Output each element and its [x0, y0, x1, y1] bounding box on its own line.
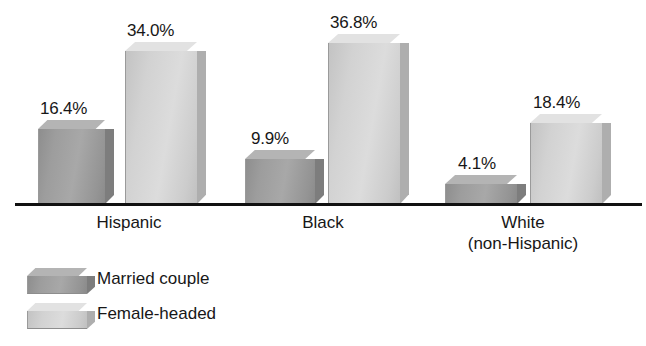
x-axis-baseline [15, 203, 642, 206]
category-label-black: Black [243, 212, 403, 233]
bar-front-face [125, 51, 197, 204]
bar-top-face [245, 150, 315, 159]
bar-side-face [315, 159, 324, 204]
bar-front-face [38, 129, 105, 204]
value-label-hispanic-female-headed: 34.0% [127, 21, 174, 40]
category-label-line-1: White [501, 213, 544, 232]
legend-label-married-couple: Married couple [97, 266, 209, 292]
bar-top-face [328, 34, 400, 43]
value-label-black-female-headed: 36.8% [330, 13, 377, 32]
bar-black-married-couple [245, 150, 315, 204]
legend-swatch-married-couple [27, 268, 87, 294]
category-label-line-1: Black [302, 213, 344, 232]
bar-side-face [602, 123, 611, 204]
bar-front-face [245, 159, 315, 204]
legend-swatch-front-face [27, 311, 87, 329]
value-label-black-married-couple: 9.9% [251, 129, 289, 148]
value-label-white-married-couple: 4.1% [458, 154, 496, 173]
bar-side-face [517, 184, 526, 204]
value-label-hispanic-married-couple: 16.4% [40, 99, 87, 118]
bar-top-face [38, 120, 105, 129]
bar-side-face [197, 51, 206, 204]
bar-side-face [400, 43, 409, 204]
legend-item-female-headed: Female-headed [27, 301, 327, 331]
bar-top-face [125, 42, 197, 51]
bar-hispanic-female-headed [125, 42, 197, 204]
bar-top-face [530, 114, 602, 123]
bar-top-face [445, 175, 517, 184]
bar-front-face [445, 184, 517, 204]
category-label-white-non-hispanic: White (non-Hispanic) [443, 212, 603, 254]
legend-swatch-side-face [87, 311, 95, 329]
category-label-hispanic: Hispanic [49, 212, 209, 233]
bar-black-female-headed [328, 34, 400, 204]
bar-chart: 16.4% 34.0% 9.9% 36.8% 4.1% 18.4% Hispan… [0, 0, 646, 346]
legend: Married couple Female-headed [27, 266, 327, 336]
bar-hispanic-married-couple [38, 120, 105, 204]
bar-front-face [530, 123, 602, 204]
legend-swatch-front-face [27, 276, 87, 294]
category-label-line-1: Hispanic [96, 213, 161, 232]
legend-swatch-top-face [27, 303, 87, 311]
legend-swatch-side-face [87, 276, 95, 294]
legend-item-married-couple: Married couple [27, 266, 327, 296]
bar-front-face [328, 43, 400, 204]
category-label-line-2: (non-Hispanic) [443, 233, 603, 254]
bar-side-face [105, 129, 114, 204]
legend-swatch-top-face [27, 268, 87, 276]
bar-white-married-couple [445, 175, 517, 204]
value-label-white-female-headed: 18.4% [533, 93, 580, 112]
bar-white-female-headed [530, 114, 602, 204]
legend-label-female-headed: Female-headed [97, 301, 216, 327]
legend-swatch-female-headed [27, 303, 87, 329]
